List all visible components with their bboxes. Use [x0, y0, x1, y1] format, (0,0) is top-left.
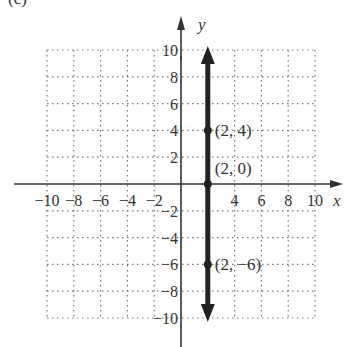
y-tick-label: 6 [170, 96, 178, 113]
y-tick-label: 4 [170, 122, 178, 139]
x-tick-label: −8 [65, 192, 82, 209]
y-tick-label: 10 [162, 42, 178, 59]
x-axis-label: x [332, 191, 341, 210]
data-point [204, 126, 212, 134]
x-tick-label: −6 [92, 192, 109, 209]
axes: yx [14, 15, 343, 347]
data-point [204, 260, 212, 268]
x-axis-arrow-icon [330, 180, 343, 188]
y-axis-arrow-icon [177, 16, 185, 30]
arrow-down-icon [201, 304, 215, 322]
point-label: (2, 0) [215, 159, 252, 178]
coordinate-plane: yx −10−8−6−4−246810108642−2−4−6−8−10 (2,… [0, 0, 350, 347]
x-tick-label: −10 [34, 192, 59, 209]
y-tick-label: −2 [161, 203, 178, 220]
x-tick-label: −4 [119, 192, 136, 209]
partial-label: (c) [8, 0, 27, 8]
point-label: (2, −6) [215, 255, 261, 274]
y-tick-label: −4 [161, 230, 178, 247]
point-label: (2, 4) [215, 121, 252, 140]
y-tick-label: −6 [161, 256, 178, 273]
x-tick-label: 4 [231, 192, 239, 209]
x-tick-label: 8 [284, 192, 292, 209]
y-tick-label: 8 [170, 69, 178, 86]
x-tick-label: 10 [307, 192, 323, 209]
y-tick-label: 2 [170, 149, 178, 166]
y-tick-label: −8 [161, 283, 178, 300]
arrow-up-icon [201, 46, 215, 64]
x-tick-label: 6 [257, 192, 265, 209]
y-axis-label: y [196, 15, 206, 34]
data-point [204, 180, 212, 188]
y-tick-label: −10 [153, 310, 178, 327]
